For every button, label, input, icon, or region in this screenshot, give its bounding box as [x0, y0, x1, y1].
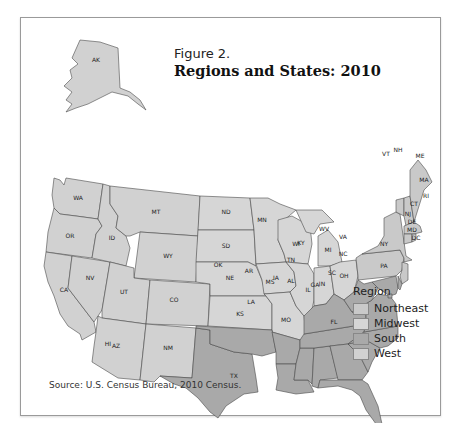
label-WV: WV: [319, 225, 330, 232]
label-AL: AL: [287, 277, 295, 284]
legend-title: Region: [353, 285, 428, 298]
state-FL: [318, 380, 382, 423]
label-NC: NC: [339, 250, 348, 257]
label-UT: UT: [120, 288, 128, 295]
label-VT: VT: [382, 150, 390, 157]
label-SC: SC: [328, 269, 336, 276]
legend-label: West: [374, 347, 401, 360]
label-TX: TX: [229, 372, 238, 379]
legend-item-northeast: Northeast: [353, 301, 428, 316]
label-CT: CT: [410, 200, 418, 207]
swatch-south: [353, 333, 369, 345]
legend-item-midwest: Midwest: [353, 316, 428, 331]
label-MO: MO: [281, 316, 291, 323]
label-MT: MT: [152, 208, 161, 215]
legend-label: Northeast: [374, 302, 428, 315]
label-NY: NY: [380, 240, 388, 247]
label-GA: GA: [311, 281, 321, 288]
label-OK: OK: [214, 261, 224, 268]
label-MD: MD: [407, 226, 417, 233]
label-KS: KS: [236, 310, 244, 317]
label-NJ: NJ: [405, 210, 411, 218]
label-NH: NH: [394, 146, 403, 153]
label-AK: AK: [92, 56, 101, 63]
label-AR: AR: [245, 267, 253, 274]
label-MI: MI: [325, 246, 332, 253]
label-LA: LA: [247, 298, 255, 305]
label-NE: NE: [226, 274, 234, 281]
label-NV: NV: [86, 274, 95, 281]
label-HI: HI: [105, 340, 112, 347]
label-WY: WY: [163, 252, 173, 259]
label-ND: ND: [221, 208, 230, 215]
label-DC: DC: [412, 234, 421, 241]
label-AZ: AZ: [112, 342, 120, 349]
label-ME: ME: [416, 152, 425, 159]
label-OR: OR: [66, 232, 75, 239]
swatch-midwest: [353, 318, 369, 330]
legend-item-west: West: [353, 346, 428, 361]
state-CO: [146, 280, 210, 326]
region-west: [44, 40, 210, 382]
label-CA: CA: [60, 286, 69, 293]
label-SD: SD: [222, 242, 231, 249]
label-WA: WA: [73, 194, 84, 201]
source-note: Source: U.S. Census Bureau, 2010 Census.: [49, 380, 241, 390]
label-PA: PA: [380, 262, 388, 269]
label-VA: VA: [339, 233, 348, 240]
swatch-west: [353, 348, 369, 360]
label-ID: ID: [109, 234, 116, 241]
label-IN: IN: [319, 280, 325, 287]
legend-label: Midwest: [374, 317, 419, 330]
state-NM: [140, 324, 196, 382]
label-RI: RI: [423, 192, 429, 199]
label-DE: DE: [408, 218, 417, 225]
label-TN: TN: [286, 256, 295, 263]
label-FL: FL: [331, 318, 338, 325]
label-CO: CO: [170, 296, 179, 303]
swatch-northeast: [353, 303, 369, 315]
state-AK: [64, 40, 146, 112]
legend-label: South: [374, 332, 406, 345]
legend-item-south: South: [353, 331, 428, 346]
label-KY: KY: [297, 239, 305, 246]
label-NM: NM: [163, 344, 173, 351]
label-OH: OH: [339, 272, 348, 279]
label-MA: MA: [419, 176, 429, 183]
label-MN: MN: [257, 216, 267, 223]
map-legend: Region Northeast Midwest South West: [353, 285, 428, 361]
label-MS: MS: [266, 278, 275, 285]
